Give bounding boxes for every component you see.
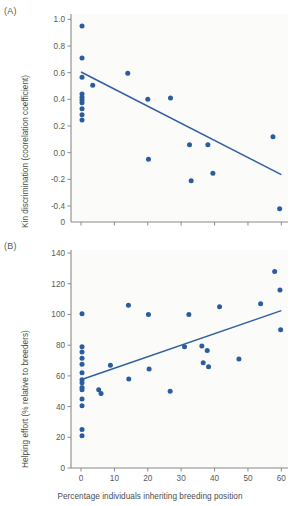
data-point [126,303,131,308]
data-point [187,142,192,147]
x-tick-label: 40 [210,474,220,483]
y-tick-label: 0.8 [54,42,66,51]
data-point [168,96,173,101]
y-tick-label: 20 [56,433,66,442]
data-point [145,97,150,102]
data-point [80,75,85,80]
data-point [90,83,95,88]
data-point [236,357,241,362]
y-tick-label: 0 [60,464,65,473]
data-point [80,118,85,123]
data-point [272,269,277,274]
data-point [80,106,85,111]
data-point [206,364,211,369]
x-tick-label: 10 [110,474,120,483]
y-tick-label: 60 [56,372,66,381]
data-point [125,71,130,76]
data-point [80,403,85,408]
data-point [80,396,85,401]
data-point [80,433,85,438]
data-point [80,370,85,375]
data-point [80,350,85,355]
data-point [182,344,187,349]
data-point [80,311,85,316]
data-point [147,366,152,371]
data-point [277,206,282,211]
data-point [205,348,210,353]
data-point [278,327,283,332]
panel-a-scatter-plot: -0.4-0.20.00.20.40.60.81.00 [0,0,300,240]
data-point [126,376,131,381]
data-point [146,157,151,162]
y-tick-label: 140 [51,249,65,258]
axis-origin-label: 0 [60,218,65,227]
x-tick-label: 50 [243,474,253,483]
y-tick-label: 1.0 [54,15,66,24]
data-point [80,380,85,385]
data-point [80,24,85,29]
data-point [108,363,113,368]
data-point [99,391,104,396]
data-point [258,301,263,306]
data-point [270,134,275,139]
data-point [217,304,222,309]
x-tick-label: 20 [143,474,153,483]
data-point [80,112,85,117]
y-tick-label: 0.6 [54,69,66,78]
data-point [80,100,85,105]
y-tick-label: 0.0 [54,149,66,158]
x-tick-label: 0 [79,474,84,483]
data-point [80,362,85,367]
panel-b-scatter-plot: 0204060801001201400102030405060 [0,240,300,490]
data-point [189,178,194,183]
data-point [210,171,215,176]
plot-background [71,14,288,222]
data-point [168,389,173,394]
figure-container: (A) (B) Kin discrimination (coorelation … [0,0,300,506]
data-point [80,427,85,432]
data-point [80,344,85,349]
data-point [186,312,191,317]
data-point [146,312,151,317]
shared-x-axis-title: Percentage individuals inheriting breedi… [57,492,242,501]
y-tick-label: -0.4 [51,202,66,211]
data-point [80,56,85,61]
y-tick-label: 0.2 [54,122,66,131]
x-tick-label: 60 [277,474,287,483]
x-tick-label: 30 [177,474,187,483]
y-tick-label: 80 [56,341,66,350]
y-tick-label: 0.4 [54,95,66,104]
data-point [201,360,206,365]
data-point [205,142,210,147]
y-tick-label: -0.2 [51,175,66,184]
y-tick-label: 100 [51,310,65,319]
data-point [80,356,85,361]
y-tick-label: 40 [56,403,66,412]
data-point [277,287,282,292]
data-point [199,343,204,348]
plot-background [71,250,288,468]
data-point [80,387,85,392]
y-tick-label: 120 [51,280,65,289]
